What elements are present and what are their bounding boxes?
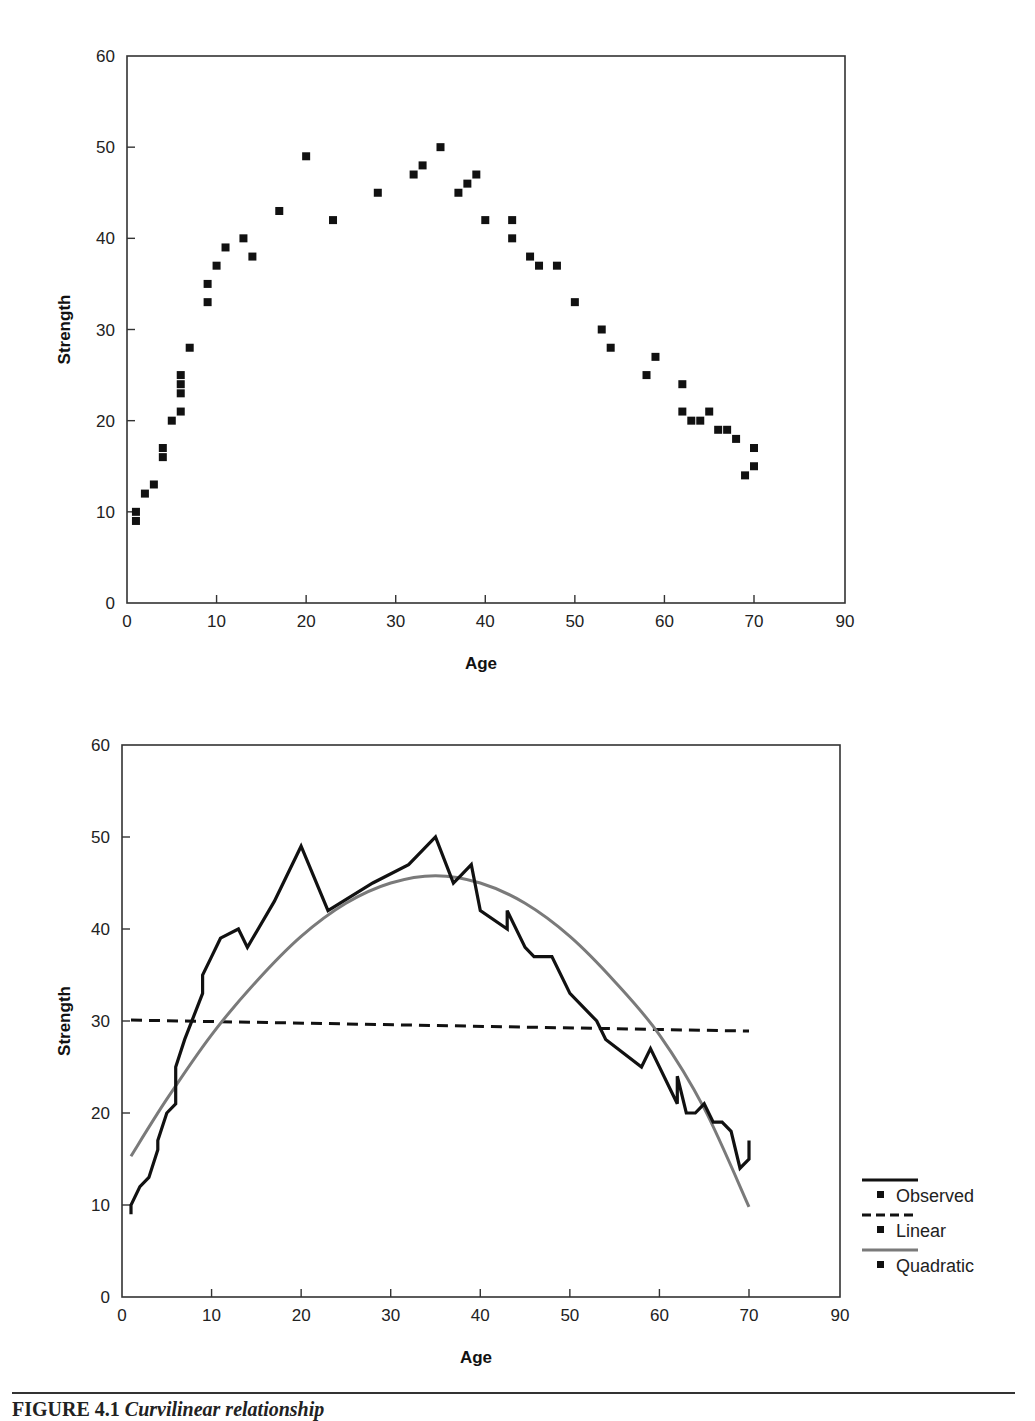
x-tick-label: 0 [122, 612, 131, 631]
data-point [329, 216, 337, 224]
data-point [696, 417, 704, 425]
legend-marker-icon [877, 1226, 884, 1233]
figure-caption: FIGURE 4.1 Curvilinear relationship [12, 1398, 324, 1421]
x-tick-label: 70 [745, 612, 764, 631]
data-point [535, 262, 543, 270]
x-tick-label: 90 [836, 612, 855, 631]
caption-title: Curvilinear relationship [125, 1398, 325, 1420]
legend-marker-icon [877, 1191, 884, 1198]
data-point [508, 216, 516, 224]
data-point [150, 480, 158, 488]
x-tick-label: 60 [650, 1306, 669, 1325]
data-point [714, 426, 722, 434]
line-chart-fits: 010203040506001020304050607090AgeStrengt… [0, 700, 1035, 1380]
x-tick-label: 90 [831, 1306, 850, 1325]
top-plot-frame [127, 56, 845, 603]
data-point [651, 353, 659, 361]
data-point [678, 380, 686, 388]
x-tick-label: 50 [565, 612, 584, 631]
data-point [607, 344, 615, 352]
x-tick-label: 10 [207, 612, 226, 631]
data-point [526, 253, 534, 261]
data-point [732, 435, 740, 443]
data-point [275, 207, 283, 215]
y-tick-label: 30 [96, 321, 115, 340]
x-tick-label: 70 [740, 1306, 759, 1325]
line-plot-svg: 010203040506001020304050607090AgeStrengt… [0, 700, 1035, 1380]
y-tick-label: 10 [91, 1196, 110, 1215]
legend-marker-icon [877, 1261, 884, 1268]
x-axis-title: Age [460, 1348, 492, 1367]
y-tick-label: 40 [91, 920, 110, 939]
y-tick-label: 30 [91, 1012, 110, 1031]
data-point [410, 171, 418, 179]
data-point [186, 344, 194, 352]
x-tick-label: 0 [117, 1306, 126, 1325]
data-point [678, 408, 686, 416]
x-axis-title: Age [465, 654, 497, 673]
data-point [177, 389, 185, 397]
x-tick-label: 20 [297, 612, 316, 631]
data-point [723, 426, 731, 434]
y-axis-title: Strength [55, 986, 74, 1056]
data-point [159, 453, 167, 461]
y-tick-label: 20 [91, 1104, 110, 1123]
y-tick-label: 60 [96, 47, 115, 66]
x-tick-label: 30 [381, 1306, 400, 1325]
y-tick-label: 50 [96, 138, 115, 157]
data-point [481, 216, 489, 224]
data-point [553, 262, 561, 270]
data-point [437, 143, 445, 151]
y-tick-label: 20 [96, 412, 115, 431]
data-point [177, 371, 185, 379]
y-tick-label: 40 [96, 229, 115, 248]
x-tick-label: 60 [655, 612, 674, 631]
y-tick-label: 50 [91, 828, 110, 847]
scatter-plot-svg: 010203040506001020304050607090AgeStrengt… [0, 0, 1035, 700]
data-point [168, 417, 176, 425]
caption-divider [12, 1392, 1015, 1394]
data-point [132, 508, 140, 516]
data-point [213, 262, 221, 270]
data-point [302, 152, 310, 160]
y-tick-label: 10 [96, 503, 115, 522]
scatter-chart-age-strength: 010203040506001020304050607090AgeStrengt… [0, 0, 1035, 700]
x-tick-label: 40 [471, 1306, 490, 1325]
x-tick-label: 30 [386, 612, 405, 631]
data-point [643, 371, 651, 379]
y-tick-label: 0 [106, 594, 115, 613]
data-point [239, 234, 247, 242]
data-point [374, 189, 382, 197]
caption-label: FIGURE 4.1 [12, 1398, 120, 1420]
data-point [204, 280, 212, 288]
y-tick-label: 0 [101, 1288, 110, 1307]
data-point [141, 490, 149, 498]
chart-legend: ObservedLinearQuadratic [862, 1180, 974, 1276]
data-point [472, 171, 480, 179]
data-point [508, 234, 516, 242]
data-point [750, 462, 758, 470]
y-tick-label: 60 [91, 736, 110, 755]
data-point [177, 380, 185, 388]
data-point [463, 180, 471, 188]
data-point [687, 417, 695, 425]
series-line-quadratic [131, 876, 749, 1207]
legend-label-observed: Observed [896, 1186, 974, 1206]
data-point [750, 444, 758, 452]
data-point [204, 298, 212, 306]
y-axis-title: Strength [55, 295, 74, 365]
data-point [741, 471, 749, 479]
x-tick-label: 20 [292, 1306, 311, 1325]
data-point [248, 253, 256, 261]
data-point [222, 243, 230, 251]
data-point [177, 408, 185, 416]
x-tick-label: 10 [202, 1306, 221, 1325]
legend-label-quadratic: Quadratic [896, 1256, 974, 1276]
x-tick-label: 50 [560, 1306, 579, 1325]
x-tick-label: 40 [476, 612, 495, 631]
data-point [419, 161, 427, 169]
data-point [132, 517, 140, 525]
data-point [159, 444, 167, 452]
data-point [571, 298, 579, 306]
data-point [705, 408, 713, 416]
